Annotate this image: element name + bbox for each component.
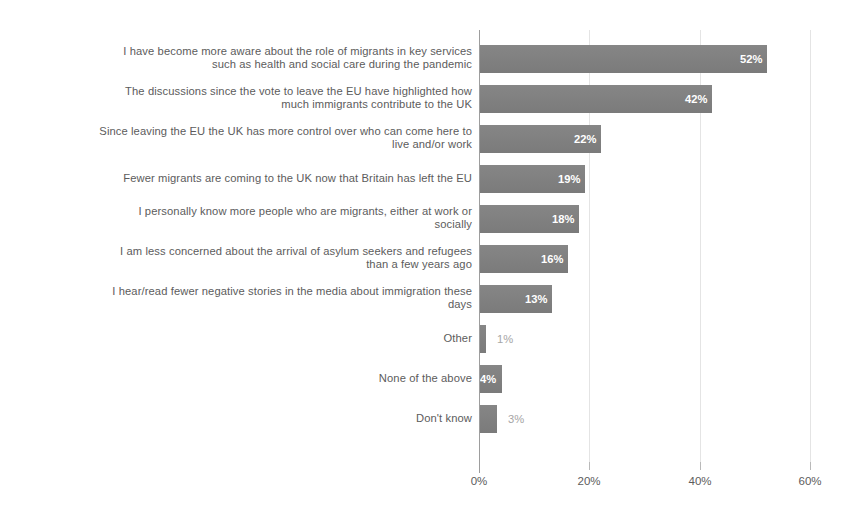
category-label: Other (52, 332, 472, 345)
bar-chart: I have become more aware about the role … (0, 0, 864, 524)
table-row: Other 1% (0, 325, 864, 353)
x-tick-label-40: 40% (688, 474, 711, 488)
x-tick-label-0: 0% (471, 474, 488, 488)
x-tick-20 (589, 462, 590, 470)
category-label: The discussions since the vote to leave … (52, 85, 472, 111)
bar[interactable] (480, 85, 712, 113)
table-row: Don't know 3% (0, 405, 864, 433)
y-axis-line (479, 30, 480, 473)
bar[interactable] (480, 45, 767, 73)
x-tick-0 (479, 462, 480, 470)
x-tick-label-20: 20% (577, 474, 600, 488)
table-row: I hear/read fewer negative stories in th… (0, 285, 864, 313)
bar-value-label: 3% (508, 412, 524, 426)
table-row: I personally know more people who are mi… (0, 205, 864, 233)
bar-value-label: 42% (685, 92, 707, 106)
bar-value-label: 1% (497, 332, 513, 346)
bar-value-label: 13% (525, 292, 547, 306)
category-label: None of the above (52, 372, 472, 385)
category-label: I have become more aware about the role … (52, 45, 472, 71)
x-tick-40 (700, 462, 701, 470)
category-label: Fewer migrants are coming to the UK now … (52, 172, 472, 185)
bar-value-label: 22% (574, 132, 596, 146)
category-label: I personally know more people who are mi… (52, 205, 472, 231)
category-label: Don't know (52, 412, 472, 425)
bar-value-label: 18% (552, 212, 574, 226)
table-row: The discussions since the vote to leave … (0, 85, 864, 113)
table-row: I have become more aware about the role … (0, 45, 864, 73)
bar-value-label: 16% (541, 252, 563, 266)
x-tick-60 (810, 462, 811, 470)
category-label: Since leaving the EU the UK has more con… (52, 125, 472, 151)
bar[interactable] (480, 405, 497, 433)
category-label: I hear/read fewer negative stories in th… (52, 285, 472, 311)
table-row: Fewer migrants are coming to the UK now … (0, 165, 864, 193)
bar-value-label: 19% (558, 172, 580, 186)
table-row: Since leaving the EU the UK has more con… (0, 125, 864, 153)
table-row: None of the above 4% (0, 365, 864, 393)
x-tick-label-60: 60% (798, 474, 821, 488)
bar-value-label: 4% (480, 372, 496, 386)
table-row: I am less concerned about the arrival of… (0, 245, 864, 273)
bar[interactable] (480, 325, 486, 353)
category-label: I am less concerned about the arrival of… (52, 245, 472, 271)
bar-value-label: 52% (740, 52, 762, 66)
bar-rows: I have become more aware about the role … (0, 30, 864, 462)
